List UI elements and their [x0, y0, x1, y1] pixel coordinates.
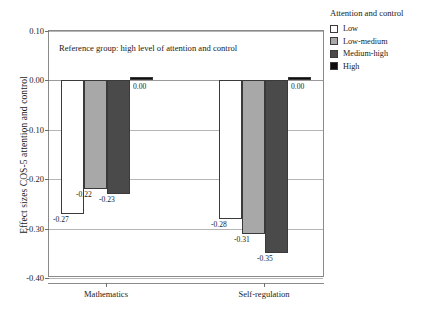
x-tick-label: Mathematics	[84, 289, 128, 299]
legend-items: LowLow-mediumMedium-highHigh	[330, 24, 434, 71]
bars-layer: -0.27-0.22-0.230.00-0.28-0.31-0.350.00	[49, 31, 323, 276]
bar-chart: Effect sizes COS-5 attention and control…	[0, 0, 434, 309]
legend-item-label: Medium-high	[343, 49, 388, 58]
legend-item-label: Low-medium	[343, 37, 388, 46]
bar	[84, 80, 107, 189]
bar	[107, 80, 130, 194]
x-axis-line	[48, 283, 324, 284]
bar-value-label: -0.35	[257, 254, 273, 263]
legend-swatch-icon	[330, 50, 338, 58]
legend-item-label: High	[343, 62, 359, 71]
legend-item: Medium-high	[330, 49, 434, 58]
y-tick-label: 0.10	[29, 26, 44, 36]
gridline	[49, 278, 323, 279]
legend-swatch-icon	[330, 62, 338, 70]
x-tick-mark	[264, 283, 265, 287]
x-tick-label: Self-regulation	[239, 289, 290, 299]
bar	[265, 80, 288, 253]
bar-value-label: -0.28	[211, 220, 227, 229]
y-tick-mark	[45, 278, 49, 279]
legend-swatch-icon	[330, 37, 338, 45]
bar	[219, 80, 242, 218]
y-tick-label: -0.20	[26, 174, 44, 184]
bar-value-label: -0.23	[99, 195, 115, 204]
bar-value-label: 0.00	[133, 82, 146, 91]
bar-value-label: -0.22	[76, 190, 92, 199]
legend-item: High	[330, 62, 434, 71]
bar	[242, 80, 265, 233]
legend: Attention and control LowLow-mediumMediu…	[330, 8, 434, 74]
legend-item: Low	[330, 24, 434, 33]
y-tick-label: -0.30	[26, 224, 44, 234]
y-axis-title: Effect sizes COS-5 attention and control	[19, 35, 29, 275]
bar-value-label: 0.00	[291, 82, 304, 91]
legend-item: Low-medium	[330, 37, 434, 46]
plot-area: Reference group: high level of attention…	[48, 30, 324, 277]
bar-value-label: -0.27	[53, 215, 69, 224]
legend-swatch-icon	[330, 25, 338, 33]
y-tick-label: -0.10	[26, 125, 44, 135]
x-tick-mark	[106, 283, 107, 287]
legend-title: Attention and control	[330, 8, 434, 18]
y-tick-label: 0.00	[29, 75, 44, 85]
bar-value-label: -0.31	[234, 235, 250, 244]
bar	[130, 77, 153, 80]
bar	[288, 77, 311, 80]
legend-item-label: Low	[343, 24, 358, 33]
y-tick-label: -0.40	[26, 273, 44, 283]
